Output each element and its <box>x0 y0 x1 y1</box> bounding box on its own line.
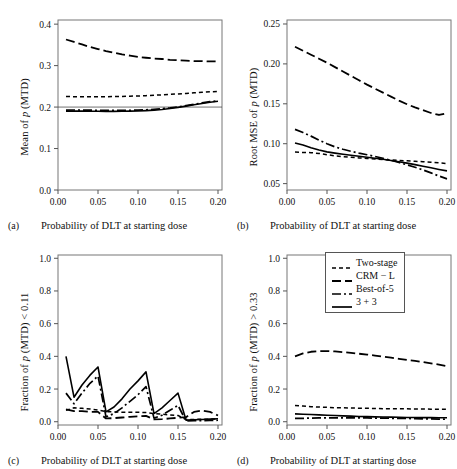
svg-text:0.05: 0.05 <box>90 197 107 207</box>
svg-text:0.15: 0.15 <box>263 99 280 109</box>
svg-text:0.10: 0.10 <box>263 139 280 149</box>
svg-text:0.3: 0.3 <box>39 61 51 71</box>
legend-line-swatch <box>331 258 353 267</box>
svg-text:0.4: 0.4 <box>268 352 280 362</box>
panel-c-xlabel: Probability of DLT at starting dose <box>0 455 228 466</box>
legend-item-best-of-5: Best-of-5 <box>331 282 398 295</box>
svg-text:0.8: 0.8 <box>268 286 280 296</box>
svg-text:0.0: 0.0 <box>39 417 51 427</box>
svg-text:0.15: 0.15 <box>170 432 187 442</box>
legend-item-label: 3 + 3 <box>356 296 377 307</box>
legend-item-label: Two-stage <box>356 257 398 268</box>
svg-text:0.10: 0.10 <box>130 432 147 442</box>
svg-text:0.20: 0.20 <box>210 197 227 207</box>
svg-text:0.15: 0.15 <box>399 197 416 207</box>
legend-line-swatch <box>331 297 353 306</box>
svg-text:0.10: 0.10 <box>130 197 147 207</box>
svg-text:0.15: 0.15 <box>399 432 416 442</box>
legend-item-label: Best-of-5 <box>356 283 394 294</box>
legend-item-two-stage: Two-stage <box>331 256 398 269</box>
svg-text:0.2: 0.2 <box>268 385 280 395</box>
svg-text:0.20: 0.20 <box>439 197 456 207</box>
svg-text:0.10: 0.10 <box>359 197 376 207</box>
svg-text:0.8: 0.8 <box>39 286 51 296</box>
svg-text:0.20: 0.20 <box>439 432 456 442</box>
svg-text:0.00: 0.00 <box>279 197 296 207</box>
svg-text:0.00: 0.00 <box>50 197 67 207</box>
panel-b-plot: 0.000.050.100.150.200.050.100.150.200.25 <box>229 0 457 234</box>
svg-text:0.4: 0.4 <box>39 352 51 362</box>
svg-text:1.0: 1.0 <box>39 254 51 264</box>
svg-text:0.10: 0.10 <box>359 432 376 442</box>
svg-text:0.4: 0.4 <box>39 20 51 30</box>
svg-text:0.05: 0.05 <box>319 432 336 442</box>
svg-text:0.05: 0.05 <box>319 197 336 207</box>
panel-b-xlabel: Probability of DLT at starting dose <box>229 220 457 231</box>
svg-text:0.25: 0.25 <box>263 19 280 29</box>
svg-text:0.05: 0.05 <box>263 179 280 189</box>
svg-text:0.05: 0.05 <box>90 432 107 442</box>
svg-text:0.1: 0.1 <box>39 144 51 154</box>
svg-text:0.2: 0.2 <box>39 103 51 113</box>
legend-line-swatch <box>331 271 353 280</box>
panel-a-plot: 0.000.050.100.150.200.00.10.20.30.4 <box>0 0 228 234</box>
svg-text:0.0: 0.0 <box>268 417 280 427</box>
svg-text:1.0: 1.0 <box>268 254 280 264</box>
svg-text:0.0: 0.0 <box>39 186 51 196</box>
legend-item-crm-l: CRM − L <box>331 269 398 282</box>
svg-text:0.6: 0.6 <box>39 319 51 329</box>
panel-d: Fraction of p (MTD) > 0.33 0.000.050.100… <box>229 235 457 469</box>
panel-b: Root MSE of p (MTD) 0.000.050.100.150.20… <box>229 0 457 234</box>
svg-text:0.20: 0.20 <box>210 432 227 442</box>
svg-text:0.2: 0.2 <box>39 385 51 395</box>
svg-text:0.6: 0.6 <box>268 319 280 329</box>
panel-a-xlabel: Probability of DLT at starting dose <box>0 220 228 231</box>
figure-panel-grid: Mean of p (MTD) 0.000.050.100.150.200.00… <box>0 0 457 469</box>
panel-c: Fraction of p (MTD) < 0.11 0.000.050.100… <box>0 235 228 469</box>
svg-text:0.20: 0.20 <box>263 59 280 69</box>
svg-text:0.00: 0.00 <box>279 432 296 442</box>
panel-a: Mean of p (MTD) 0.000.050.100.150.200.00… <box>0 0 228 234</box>
panel-d-xlabel: Probability of DLT at starting dose <box>229 455 457 466</box>
legend: Two-stageCRM − LBest-of-53 + 3 <box>325 252 405 313</box>
svg-text:0.00: 0.00 <box>50 432 67 442</box>
legend-line-swatch <box>331 284 353 293</box>
legend-item-label: CRM − L <box>356 270 395 281</box>
svg-text:0.15: 0.15 <box>170 197 187 207</box>
legend-item-3-3: 3 + 3 <box>331 295 398 308</box>
panel-c-plot: 0.000.050.100.150.200.00.20.40.60.81.0 <box>0 235 228 469</box>
